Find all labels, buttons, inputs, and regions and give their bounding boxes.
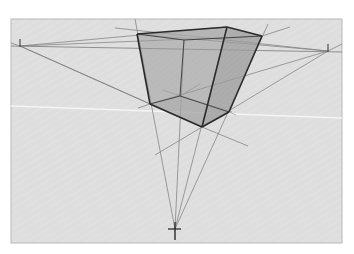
perspective-drawing: Three-point perspective box (worm's-eye … [0,0,354,254]
drawing-svg [0,0,354,254]
